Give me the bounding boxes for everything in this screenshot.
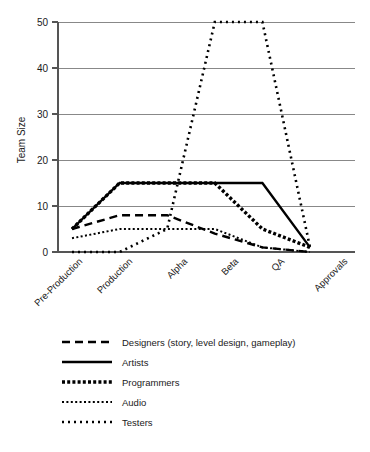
y-tick-label-10: 10 bbox=[37, 201, 49, 212]
legend-label-audio: Audio bbox=[122, 397, 146, 408]
y-axis-title: Team Size bbox=[16, 116, 27, 163]
y-tick-label-40: 40 bbox=[37, 63, 49, 74]
y-tick-label-0: 0 bbox=[42, 247, 48, 258]
legend-label-designers: Designers (story, level design, gameplay… bbox=[122, 337, 296, 348]
y-tick-label-30: 30 bbox=[37, 109, 49, 120]
chart-container: 50 40 30 20 10 0 Team Size Pre-Productio… bbox=[0, 0, 370, 452]
y-tick-label-20: 20 bbox=[37, 155, 49, 166]
legend-label-artists: Artists bbox=[122, 357, 149, 368]
y-tick-label-50: 50 bbox=[37, 17, 49, 28]
legend-label-programmers: Programmers bbox=[122, 377, 180, 388]
legend-label-testers: Testers bbox=[122, 417, 153, 428]
team-size-line-chart: 50 40 30 20 10 0 Team Size Pre-Productio… bbox=[0, 0, 370, 452]
